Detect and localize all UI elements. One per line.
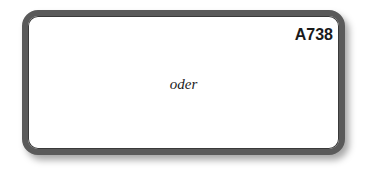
card-word: oder [28,76,339,93]
card-code: A738 [295,26,333,44]
word-card: A738 oder [22,10,345,155]
